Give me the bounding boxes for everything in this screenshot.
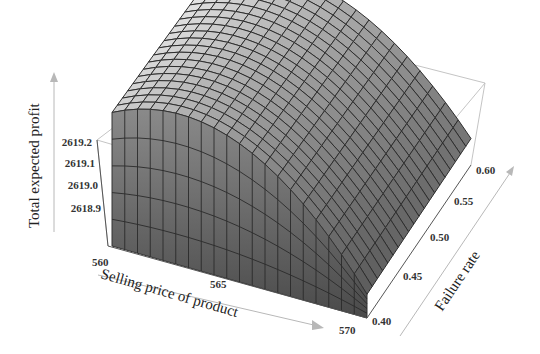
y-tick: 0.40 (372, 315, 392, 327)
y-arrow-icon (506, 166, 514, 176)
z-axis-ticks: 2619.2 2619.1 2619.0 2618.9 (62, 136, 102, 214)
surface-plot: 2619.2 2619.1 2619.0 2618.9 560 565 570 … (0, 0, 540, 354)
y-tick: 0.55 (454, 195, 474, 207)
y-tick: 0.60 (476, 164, 496, 176)
y-tick: 0.45 (403, 270, 423, 282)
x-tick: 570 (339, 324, 356, 336)
z-axis-label: Total expected profit (26, 102, 42, 228)
z-tick: 2618.9 (71, 202, 102, 214)
z-tick: 2619.2 (62, 136, 93, 148)
z-arrow-icon (50, 72, 58, 82)
x-tick: 565 (210, 278, 227, 290)
y-tick: 0.50 (430, 231, 450, 243)
z-tick: 2619.0 (68, 179, 99, 191)
y-axis-label: Failure rate (431, 247, 483, 313)
x-arrow-icon (312, 320, 324, 330)
z-tick: 2619.1 (65, 157, 95, 169)
